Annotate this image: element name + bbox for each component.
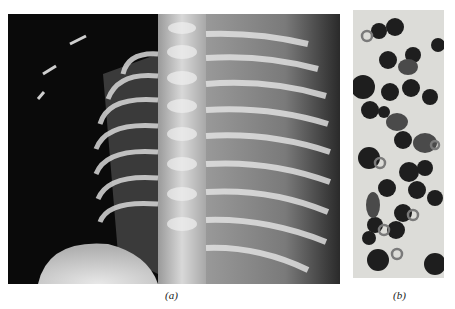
chest-xray-image (8, 14, 340, 284)
panel-a-caption: (a) (165, 289, 178, 301)
blood-smear-image (353, 10, 444, 278)
panel-b-caption: (b) (393, 289, 406, 301)
smear-graphic (353, 10, 444, 278)
xray-graphic (8, 14, 340, 284)
